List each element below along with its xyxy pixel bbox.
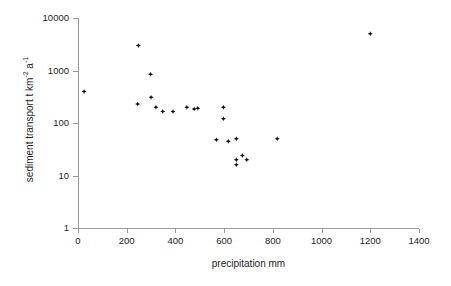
data-point — [244, 157, 249, 162]
data-point — [170, 109, 175, 114]
y-axis-title: sediment transport t km-2 a-1 — [24, 15, 35, 225]
x-tick-label: 1000 — [311, 236, 332, 246]
y-tick-mark — [73, 123, 78, 124]
data-point — [153, 105, 158, 110]
data-point — [368, 31, 373, 36]
data-point — [135, 102, 140, 107]
x-axis-line — [78, 228, 419, 229]
x-tick-mark — [175, 229, 176, 233]
x-tick-label: 400 — [167, 236, 183, 246]
data-point — [240, 153, 245, 158]
x-tick-mark — [419, 229, 420, 233]
data-point — [82, 89, 87, 94]
data-point — [234, 162, 239, 167]
data-point — [192, 106, 197, 111]
y-tick-label: 10000 — [0, 13, 69, 23]
data-point — [214, 137, 219, 142]
x-axis-title: precipitation mm — [78, 258, 419, 269]
data-point — [184, 105, 189, 110]
y-tick-mark — [73, 228, 78, 229]
x-tick-label: 0 — [75, 236, 80, 246]
x-tick-label: 200 — [119, 236, 135, 246]
scatter-chart: 0200400600800100012001400 11010010001000… — [0, 0, 451, 286]
data-point — [275, 136, 280, 141]
data-point — [221, 105, 226, 110]
x-tick-mark — [127, 229, 128, 233]
y-tick-label: 10 — [0, 171, 69, 181]
x-tick-mark — [370, 229, 371, 233]
data-point — [136, 43, 141, 48]
x-tick-mark — [273, 229, 274, 233]
y-axis-line — [78, 18, 79, 229]
y-tick-mark — [73, 18, 78, 19]
y-tick-label: 1000 — [0, 66, 69, 76]
x-tick-label: 600 — [216, 236, 232, 246]
y-axis-title-exponent-year: -1 — [22, 57, 29, 63]
y-axis-title-mid: a — [24, 63, 35, 71]
x-tick-mark — [224, 229, 225, 233]
x-tick-mark — [78, 229, 79, 233]
data-point — [226, 139, 231, 144]
y-tick-label: 1 — [0, 223, 69, 233]
y-tick-label: 100 — [0, 118, 69, 128]
y-axis-title-exponent-area: -2 — [22, 71, 29, 77]
data-point — [195, 106, 200, 111]
data-point — [234, 157, 239, 162]
y-axis-title-main: sediment transport t km — [24, 78, 35, 182]
x-tick-label: 800 — [265, 236, 281, 246]
x-tick-mark — [322, 229, 323, 233]
data-point — [160, 109, 165, 114]
y-tick-mark — [73, 71, 78, 72]
data-point — [148, 72, 153, 77]
data-point — [149, 95, 154, 100]
data-point — [234, 136, 239, 141]
y-tick-mark — [73, 176, 78, 177]
data-point — [221, 116, 226, 121]
x-tick-label: 1200 — [360, 236, 381, 246]
x-tick-label: 1400 — [408, 236, 429, 246]
